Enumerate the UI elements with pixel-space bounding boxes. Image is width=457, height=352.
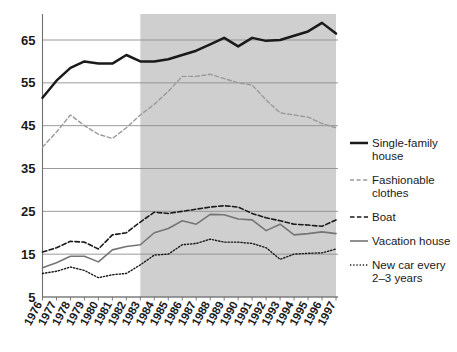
legend-item[interactable]: Boat xyxy=(350,211,396,223)
legend: Single-familyhouseFashionableclothesBoat… xyxy=(350,137,450,284)
legend-item[interactable]: Vacation house xyxy=(350,235,450,247)
legend-label: Fashionable xyxy=(372,174,435,186)
y-tick-label: 55 xyxy=(21,75,35,90)
legend-label: New car every xyxy=(372,259,446,271)
legend-item[interactable]: Single-familyhouse xyxy=(350,137,438,162)
y-tick-label: 65 xyxy=(21,33,35,48)
x-tick-labels: 1976197719781979198019811982198319841985… xyxy=(22,299,338,328)
legend-label: Boat xyxy=(372,211,396,223)
legend-item[interactable]: New car every2–3 years xyxy=(350,259,446,284)
legend-label-line2: clothes xyxy=(372,187,409,199)
y-tick-label: 15 xyxy=(21,247,35,262)
chart-canvas: 5152535455565197619771978197919801981198… xyxy=(0,0,457,352)
y-tick-labels: 5152535455565 xyxy=(21,33,35,305)
y-tick-label: 45 xyxy=(21,118,35,133)
legend-label-line2: 2–3 years xyxy=(372,272,423,284)
line-chart: 5152535455565197619771978197919801981198… xyxy=(0,0,457,352)
y-tick-label: 25 xyxy=(21,204,35,219)
legend-label-line2: house xyxy=(372,150,403,162)
legend-label: Vacation house xyxy=(372,235,450,247)
legend-label: Single-family xyxy=(372,137,438,149)
y-tick-label: 35 xyxy=(21,161,35,176)
legend-item[interactable]: Fashionableclothes xyxy=(350,174,435,199)
